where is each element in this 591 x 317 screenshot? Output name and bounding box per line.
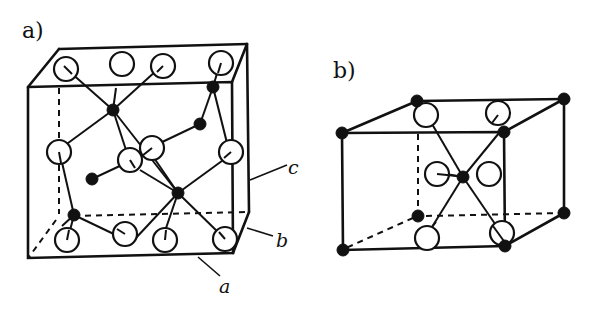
open-atom	[415, 226, 439, 250]
crystal-structure-figure: a)	[0, 0, 591, 317]
axis-label-c: c	[288, 156, 299, 178]
filled-atom	[499, 240, 511, 252]
filled-atom	[86, 173, 98, 185]
panel-a: a)	[22, 18, 299, 297]
filled-atom	[194, 118, 206, 130]
filled-atom	[107, 104, 119, 116]
axis-label-a: a	[219, 275, 230, 297]
filled-atom	[337, 244, 349, 256]
filled-atom	[412, 210, 424, 222]
panel-b: b)	[333, 58, 570, 256]
filled-atom	[498, 126, 510, 138]
open-atom	[486, 101, 510, 125]
panel-a-label: a)	[22, 18, 44, 43]
filled-atom	[457, 171, 469, 183]
filled-atom	[68, 209, 80, 221]
open-atom	[477, 162, 501, 186]
panel-b-label: b)	[333, 58, 356, 83]
filled-atom	[336, 127, 348, 139]
filled-atom	[558, 207, 570, 219]
filled-atom	[172, 187, 184, 199]
filled-atom	[207, 81, 219, 93]
filled-atom	[411, 95, 423, 107]
filled-atom	[558, 93, 570, 105]
open-atom	[110, 52, 134, 76]
axis-label-b: b	[276, 229, 288, 251]
